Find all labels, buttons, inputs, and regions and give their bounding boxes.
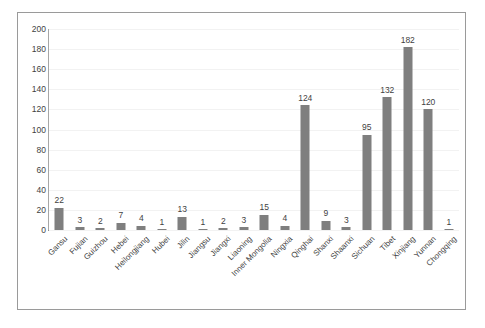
bar-value-label: 124 — [298, 94, 312, 103]
y-tick-label: 20 — [18, 206, 46, 215]
bar-slot: 1 — [193, 29, 214, 230]
bar-slot: 22 — [49, 29, 70, 230]
bar[interactable] — [116, 223, 125, 230]
bar-value-label: 4 — [282, 214, 287, 223]
bar[interactable] — [321, 221, 330, 230]
bar-slot: 15 — [254, 29, 275, 230]
bar[interactable] — [444, 229, 453, 230]
bar-slot: 7 — [111, 29, 132, 230]
bar[interactable] — [260, 215, 269, 230]
bar[interactable] — [157, 229, 166, 230]
bar[interactable] — [301, 105, 310, 230]
bar[interactable] — [75, 227, 84, 230]
y-tick-label: 120 — [18, 105, 46, 114]
bar-value-label: 3 — [77, 216, 82, 225]
x-tick-label: Jilin — [177, 235, 192, 250]
bar-value-label: 22 — [55, 196, 64, 205]
bar-slot: 1 — [439, 29, 460, 230]
y-tick-label: 200 — [18, 25, 46, 34]
bar-slot: 2 — [213, 29, 234, 230]
bar[interactable] — [403, 47, 412, 230]
bar-value-label: 4 — [139, 214, 144, 223]
bar[interactable] — [198, 229, 207, 230]
plot-area: 22327411312315412493951321821201 — [49, 29, 459, 230]
y-axis: 020406080100120140160180200 — [18, 13, 46, 311]
bar[interactable] — [280, 226, 289, 230]
bar[interactable] — [178, 217, 187, 230]
bar-slot: 120 — [418, 29, 439, 230]
bar-slot: 1 — [152, 29, 173, 230]
bar-slot: 13 — [172, 29, 193, 230]
bar-slot: 124 — [295, 29, 316, 230]
bar-value-label: 13 — [178, 205, 187, 214]
bar-value-label: 15 — [260, 203, 269, 212]
bar[interactable] — [342, 227, 351, 230]
bar-value-label: 120 — [421, 98, 435, 107]
bar-value-label: 132 — [380, 86, 394, 95]
bar-value-label: 9 — [323, 209, 328, 218]
bar-slot: 9 — [316, 29, 337, 230]
x-tick-label: Hubei — [151, 235, 171, 255]
bar[interactable] — [383, 97, 392, 230]
x-tick-label: Jiangsu — [187, 235, 212, 260]
y-tick-label: 160 — [18, 65, 46, 74]
bar-value-label: 7 — [118, 211, 123, 220]
bar-value-label: 2 — [98, 217, 103, 226]
y-tick-label: 100 — [18, 125, 46, 134]
bar-value-label: 95 — [362, 123, 371, 132]
bar-slot: 3 — [336, 29, 357, 230]
bar-value-label: 1 — [159, 218, 164, 227]
bar-value-label: 3 — [344, 216, 349, 225]
chart-frame: 020406080100120140160180200 223274113123… — [17, 12, 466, 310]
bar[interactable] — [96, 228, 105, 230]
bar-slot: 132 — [377, 29, 398, 230]
bar[interactable] — [219, 228, 228, 230]
bar-slot: 3 — [234, 29, 255, 230]
x-tick-label: Gansu — [47, 235, 69, 257]
bar-slot: 4 — [275, 29, 296, 230]
bar[interactable] — [55, 208, 64, 230]
bar-slot: 95 — [357, 29, 378, 230]
bar-slot: 182 — [398, 29, 419, 230]
bar[interactable] — [362, 135, 371, 230]
y-tick-label: 180 — [18, 45, 46, 54]
bar-value-label: 1 — [446, 218, 451, 227]
bar-slot: 3 — [70, 29, 91, 230]
y-tick-label: 80 — [18, 145, 46, 154]
bar-value-label: 1 — [200, 218, 205, 227]
y-tick-label: 40 — [18, 186, 46, 195]
bar-value-label: 2 — [221, 217, 226, 226]
bar-value-label: 182 — [401, 36, 415, 45]
y-tick-label: 140 — [18, 85, 46, 94]
x-axis: GansuFujianGuizhouHebeiHeilongjiangHubei… — [49, 231, 459, 309]
y-tick-label: 60 — [18, 165, 46, 174]
bar[interactable] — [239, 227, 248, 230]
bar-value-label: 3 — [241, 216, 246, 225]
bar-slot: 2 — [90, 29, 111, 230]
bar[interactable] — [424, 109, 433, 230]
y-tick-label: 0 — [18, 226, 46, 235]
bar-slot: 4 — [131, 29, 152, 230]
bar[interactable] — [137, 226, 146, 230]
